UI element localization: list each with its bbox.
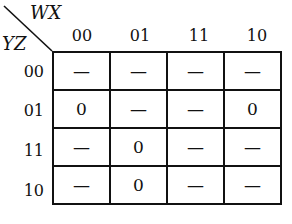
kmap-cell: — — [53, 166, 110, 204]
kmap-cell: — — [224, 128, 281, 166]
row-header: 00 — [14, 62, 44, 81]
column-header: 00 — [53, 26, 111, 45]
kmap-cell: — — [167, 90, 224, 128]
row-header: 10 — [14, 181, 44, 200]
row-variable-label: YZ — [2, 33, 26, 54]
kmap-cell: — — [224, 52, 281, 90]
kmap-cell: — — [167, 166, 224, 204]
kmap-row: — — — — — [53, 52, 281, 90]
column-header: 10 — [228, 26, 286, 45]
karnaugh-map-grid: — — — — 0 — — 0 — 0 — — — 0 — — — [52, 51, 282, 205]
row-header: 11 — [14, 141, 44, 160]
column-variable-label: WX — [30, 2, 61, 23]
kmap-row: — 0 — — — [53, 166, 281, 204]
column-header: 01 — [111, 26, 169, 45]
kmap-cell: — — [167, 52, 224, 90]
kmap-cell: — — [167, 128, 224, 166]
kmap-cell: — — [53, 52, 110, 90]
kmap-cell: — — [110, 90, 167, 128]
kmap-cell: — — [53, 128, 110, 166]
row-header: 01 — [14, 101, 44, 120]
kmap-row: 0 — — 0 — [53, 90, 281, 128]
kmap-cell: — — [110, 52, 167, 90]
kmap-cell: 0 — [110, 166, 167, 204]
kmap-cell: — — [224, 166, 281, 204]
kmap-cell: 0 — [110, 128, 167, 166]
kmap-row: — 0 — — — [53, 128, 281, 166]
column-header: 11 — [170, 26, 228, 45]
kmap-cell: 0 — [224, 90, 281, 128]
kmap-cell: 0 — [53, 90, 110, 128]
